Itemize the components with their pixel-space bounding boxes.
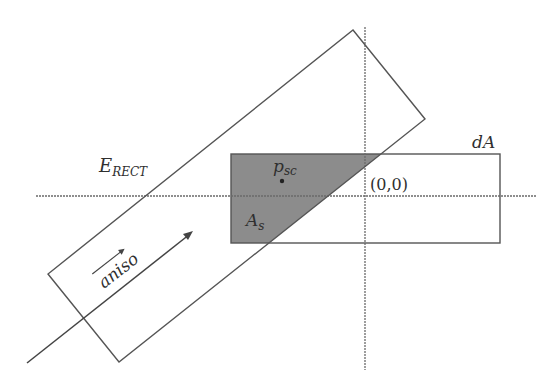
diagram-canvas: ERECT psc As dA (0,0) aniso (0, 0, 559, 386)
aniso-arrow-shaft (27, 234, 190, 363)
psc-point (280, 179, 284, 183)
aniso-label-group: aniso (90, 244, 142, 292)
da-label: dA (472, 132, 495, 152)
aniso-label: aniso (94, 248, 142, 292)
origin-label: (0,0) (370, 175, 408, 194)
erect-label: ERECT (98, 155, 148, 179)
